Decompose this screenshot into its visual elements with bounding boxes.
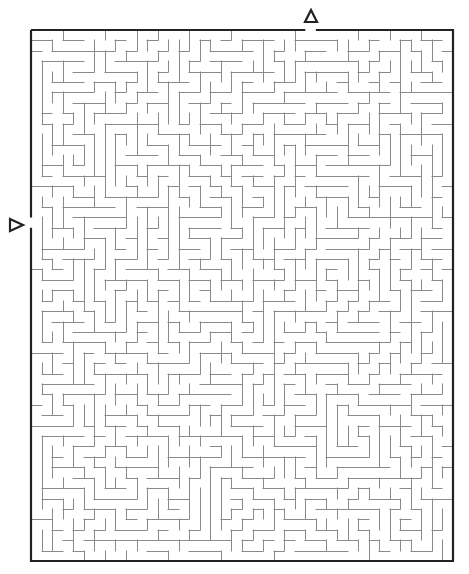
- top-entrance-triangle-icon: [303, 8, 319, 24]
- left-entrance-triangle-icon: [8, 217, 26, 233]
- maze-grid[interactable]: [0, 0, 469, 574]
